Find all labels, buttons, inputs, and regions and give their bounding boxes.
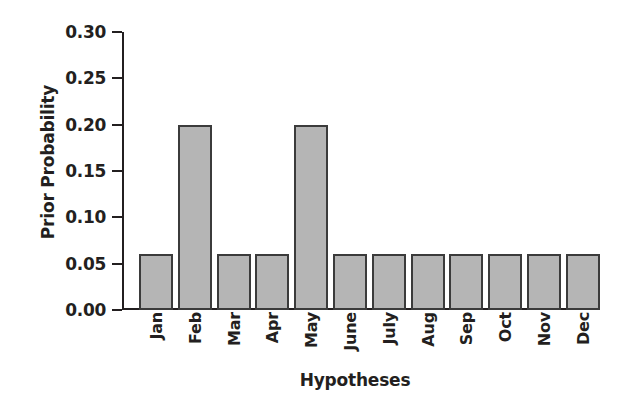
x-axis-tick-label: Nov [527, 310, 561, 370]
bar [178, 125, 212, 310]
x-axis-tick-label: Feb [178, 310, 212, 370]
y-axis-tick-label: 0.00 [46, 302, 106, 319]
y-axis-tick-mark [112, 309, 122, 311]
x-axis-tick-labels: JanFebMarAprMayJuneJulyAugSepOctNovDec [122, 310, 590, 372]
y-axis-tick-mark [112, 124, 122, 126]
x-axis-tick-label: Jan [139, 310, 173, 370]
bar [255, 254, 289, 310]
bar [566, 254, 600, 310]
x-axis-tick-label-text: June [341, 312, 360, 351]
y-axis-tick-labels: 0.300.250.200.150.100.050.00 [46, 0, 106, 416]
y-axis-tick-label: 0.10 [46, 209, 106, 226]
plot-area [122, 32, 590, 310]
x-axis-tick-label-text: Apr [263, 312, 282, 343]
x-axis-tick-label-text: Jan [147, 312, 166, 340]
bar [139, 254, 173, 310]
x-axis-tick-label-text: Feb [185, 312, 204, 344]
x-axis-tick-label: Oct [488, 310, 522, 370]
bar [449, 254, 483, 310]
x-axis-tick-label: July [372, 310, 406, 370]
x-axis-tick-label-text: July [379, 312, 398, 344]
y-axis-tick-label: 0.05 [46, 255, 106, 272]
x-axis-tick-label: Apr [255, 310, 289, 370]
bar [372, 254, 406, 310]
x-axis-title: Hypotheses [233, 370, 477, 390]
y-axis-tick-label: 0.30 [46, 24, 106, 41]
x-axis-tick-label: May [294, 310, 328, 370]
bar [411, 254, 445, 310]
x-axis-tick-label-text: Nov [535, 312, 554, 346]
y-axis-tick-label: 0.25 [46, 70, 106, 87]
y-axis-tick-mark [112, 216, 122, 218]
y-axis-tick-mark [112, 31, 122, 33]
bar [294, 125, 328, 310]
y-axis-tick-mark [112, 170, 122, 172]
y-axis-tick-label: 0.15 [46, 163, 106, 180]
x-axis-tick-label-text: Aug [418, 312, 437, 347]
y-axis-tick-mark [112, 77, 122, 79]
bar-chart-figure: Prior Probability 0.300.250.200.150.100.… [0, 0, 626, 416]
bar [217, 254, 251, 310]
y-axis-tick-mark [112, 263, 122, 265]
x-axis-tick-label: Sep [449, 310, 483, 370]
x-axis-tick-label: June [333, 310, 367, 370]
bar [488, 254, 522, 310]
x-axis-tick-label: Dec [566, 310, 600, 370]
x-axis-tick-label: Aug [411, 310, 445, 370]
x-axis-tick-label-text: Dec [573, 312, 592, 345]
bar [527, 254, 561, 310]
x-axis-tick-label: Mar [217, 310, 251, 370]
x-axis-tick-label-text: Sep [457, 312, 476, 345]
bar [333, 254, 367, 310]
x-axis-tick-label-text: Mar [224, 312, 243, 346]
x-axis-tick-label-text: May [302, 312, 321, 348]
y-axis-tick-label: 0.20 [46, 116, 106, 133]
x-axis-tick-label-text: Oct [496, 312, 515, 342]
